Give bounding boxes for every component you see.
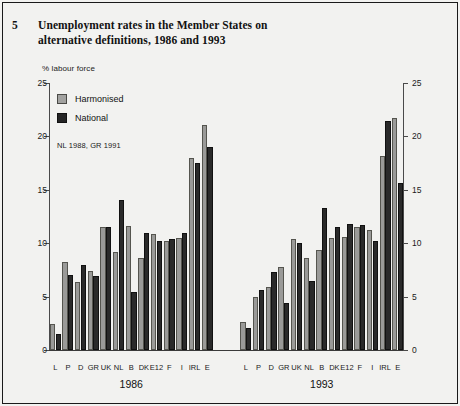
bar-1986-E12-harmonised (151, 234, 156, 350)
bar-1993-UK-harmonised (291, 239, 296, 350)
y-axis-left (49, 83, 50, 350)
figure-heading: 5 Unemployment rates in the Member State… (12, 18, 442, 48)
bar-1986-IRL-national (195, 163, 200, 350)
bar-1986-E12-national (157, 241, 162, 350)
bar-1993-IRL-national (385, 121, 390, 350)
bar-1993-F-national (360, 225, 365, 350)
legend-swatch-harmonised-icon (57, 94, 67, 104)
bar-1986-NL-harmonised (113, 252, 118, 350)
bar-1986-UK-harmonised (100, 227, 105, 350)
bar-1986-GR-national (93, 276, 98, 350)
legend-note: NL 1988, GR 1991 (57, 141, 121, 150)
y-tick-right-25 (403, 83, 408, 84)
bar-1993-E-national (398, 183, 403, 350)
y-tick-right-5 (403, 297, 408, 298)
bar-1993-L-harmonised (240, 322, 245, 350)
figure-number: 5 (12, 18, 38, 33)
bar-1986-IRL-harmonised (189, 158, 194, 350)
legend-swatch-national-icon (57, 113, 67, 123)
bar-1993-I-harmonised (367, 230, 372, 350)
y-tick-right-10 (403, 243, 408, 244)
y-tick-label-right-5: 5 (412, 293, 452, 301)
bar-1986-E-harmonised (202, 125, 207, 350)
bar-1993-E12-harmonised (342, 237, 347, 350)
bar-1993-UK-national (297, 243, 302, 350)
y-tick-right-0 (403, 350, 408, 351)
legend-item-national: National (57, 113, 124, 123)
bar-1993-IRL-harmonised (380, 156, 385, 350)
bar-1993-P-harmonised (253, 297, 258, 350)
figure-page: 5 Unemployment rates in the Member State… (0, 0, 460, 406)
y-tick-label-right-10: 10 (412, 239, 452, 247)
bar-1993-I-national (373, 241, 378, 350)
title-line-1: Unemployment rates in the Member States … (38, 18, 267, 33)
y-tick-label-left-20: 20 (7, 132, 47, 140)
bar-1986-GR-harmonised (88, 271, 93, 350)
bar-1993-NL-national (309, 281, 314, 350)
bar-1986-DK-national (144, 233, 149, 350)
bar-1993-B-national (322, 208, 327, 350)
bar-1993-D-harmonised (266, 287, 271, 350)
bar-1986-B-national (131, 292, 136, 350)
bar-1993-D-national (271, 272, 276, 350)
y-tick-label-left-10: 10 (7, 239, 47, 247)
chart-legend: Harmonised National (57, 94, 124, 132)
bar-1986-D-harmonised (75, 282, 80, 350)
x-category-label-1986-E: E (199, 363, 216, 372)
bar-1993-E-harmonised (392, 118, 397, 350)
y-tick-label-left-25: 25 (7, 79, 47, 87)
bar-1986-P-harmonised (62, 262, 67, 350)
title-line-2: alternative definitions, 1986 and 1993 (38, 33, 267, 48)
bar-1993-E12-national (347, 224, 352, 350)
legend-label-harmonised: Harmonised (75, 94, 124, 104)
bar-1993-L-national (246, 328, 251, 350)
bar-1986-NL-national (119, 200, 124, 350)
y-tick-label-right-20: 20 (412, 132, 452, 140)
bar-1986-UK-national (106, 227, 111, 350)
bar-1986-L-harmonised (50, 324, 55, 350)
y-tick-label-right-15: 15 (412, 186, 452, 194)
y-tick-label-right-25: 25 (412, 79, 452, 87)
bar-1986-L-national (56, 334, 61, 350)
x-category-label-1993-E: E (389, 363, 406, 372)
bar-1993-GR-national (284, 303, 289, 350)
bar-1993-DK-national (335, 227, 340, 350)
bar-1986-F-harmonised (164, 241, 169, 350)
y-tick-right-15 (403, 190, 408, 191)
x-axis-baseline (49, 350, 404, 351)
bar-1986-I-national (182, 233, 187, 350)
bar-1986-F-national (169, 239, 174, 350)
page-title: Unemployment rates in the Member States … (38, 18, 267, 48)
x-group-label-1986: 1986 (49, 378, 214, 390)
legend-label-national: National (75, 113, 108, 123)
y-tick-label-left-0: 0 (7, 346, 47, 354)
bar-1986-P-national (68, 275, 73, 350)
legend-item-harmonised: Harmonised (57, 94, 124, 104)
bar-1993-NL-harmonised (304, 258, 309, 350)
y-tick-label-left-15: 15 (7, 186, 47, 194)
bar-1993-DK-harmonised (329, 238, 334, 350)
bar-1993-F-harmonised (354, 227, 359, 350)
bar-1986-D-national (81, 265, 86, 350)
y-tick-label-right-0: 0 (412, 346, 452, 354)
bar-1986-B-harmonised (126, 226, 131, 350)
y-axis-unit-label: % labour force (42, 64, 95, 73)
bar-1993-B-harmonised (316, 250, 321, 350)
bar-1986-E-national (207, 147, 212, 350)
bar-1993-P-national (259, 290, 264, 350)
y-tick-right-20 (403, 136, 408, 137)
bar-1986-DK-harmonised (138, 258, 143, 350)
bar-1986-I-harmonised (176, 238, 181, 350)
bar-1993-GR-harmonised (278, 267, 283, 350)
y-tick-label-left-5: 5 (7, 293, 47, 301)
x-group-label-1993: 1993 (240, 378, 405, 390)
